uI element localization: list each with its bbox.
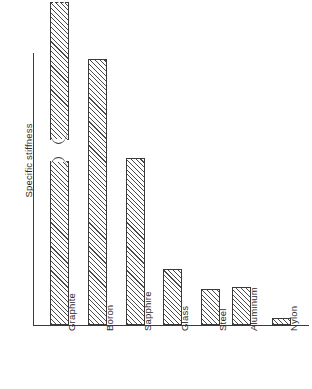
category-label-aluminum: Aluminum bbox=[248, 251, 259, 331]
category-label-boron: Boron bbox=[104, 251, 115, 331]
category-label-nylon: Nylon bbox=[288, 251, 299, 331]
category-label-sapphire: Sapphire bbox=[142, 251, 153, 331]
bar-chart: Specific stiffness Graphite Boron Sapphi… bbox=[0, 0, 312, 389]
category-label-steel: Steel bbox=[217, 251, 228, 331]
category-label-glass: Glass bbox=[179, 251, 190, 331]
category-label-graphite: Graphite bbox=[66, 251, 77, 331]
plot-area bbox=[0, 0, 312, 389]
bar-graphite-upper-segment bbox=[50, 2, 69, 143]
